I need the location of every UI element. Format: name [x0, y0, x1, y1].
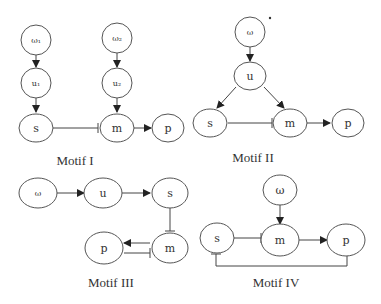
- svg-text:s: s: [167, 187, 173, 200]
- motif-4: ω s m p Motif IV: [200, 175, 365, 290]
- svg-text:m: m: [165, 242, 176, 255]
- edge-u-m: [264, 87, 284, 108]
- edge-u-s: [217, 87, 236, 108]
- svg-text:s: s: [207, 117, 213, 130]
- node-s: s: [152, 178, 188, 208]
- svg-text:u₁: u₁: [32, 79, 40, 88]
- node-omega: ω: [235, 17, 265, 47]
- node-u1: u₁: [21, 68, 51, 98]
- motif-2-label: Motif II: [232, 150, 274, 165]
- edge-s-inhibits-m: [228, 118, 272, 128]
- node-s: s: [19, 114, 53, 142]
- node-p: p: [85, 232, 123, 264]
- svg-text:m: m: [275, 234, 286, 247]
- stray-dot: [269, 17, 271, 19]
- edge-s-inhibits-m: [53, 123, 98, 133]
- svg-text:u: u: [246, 70, 253, 83]
- motif-2: ω u s m p Motif II: [193, 17, 364, 165]
- motif-3: ω u s m p Motif III: [19, 178, 188, 290]
- node-s: s: [193, 109, 227, 137]
- node-u: u: [84, 178, 122, 208]
- node-p: p: [152, 114, 184, 142]
- motif-1: ω₁ u₁ s ω₂ u₂ m p Motif I: [19, 23, 184, 168]
- svg-text:ω: ω: [35, 189, 42, 198]
- edge-s-inhibits-m: [165, 208, 175, 231]
- motif-3-label: Motif III: [88, 275, 134, 290]
- node-m: m: [152, 233, 188, 263]
- svg-text:ω: ω: [247, 28, 254, 37]
- svg-text:ω: ω: [276, 184, 285, 197]
- node-omega2: ω₂: [102, 23, 132, 53]
- node-u: u: [234, 62, 266, 90]
- svg-text:p: p: [164, 122, 171, 135]
- svg-text:u: u: [99, 187, 106, 200]
- node-s: s: [200, 223, 234, 253]
- svg-text:ω₂: ω₂: [112, 34, 122, 43]
- node-m: m: [100, 114, 134, 142]
- edge-s-inhibits-m: [234, 233, 261, 243]
- node-omega: ω: [263, 175, 297, 205]
- node-m: m: [273, 109, 307, 137]
- svg-text:s: s: [214, 232, 220, 245]
- node-p: p: [327, 224, 365, 256]
- node-omega1: ω₁: [21, 25, 51, 55]
- network-motifs-diagram: ω₁ u₁ s ω₂ u₂ m p Motif I: [0, 0, 381, 304]
- svg-text:ω₁: ω₁: [31, 36, 41, 45]
- node-p: p: [332, 109, 364, 137]
- svg-text:u₂: u₂: [113, 79, 121, 88]
- node-omega: ω: [19, 178, 57, 208]
- svg-text:m: m: [285, 117, 296, 130]
- svg-text:p: p: [100, 242, 107, 255]
- edge-p-inhibits-m: [124, 248, 150, 258]
- svg-text:p: p: [342, 234, 349, 247]
- svg-text:p: p: [344, 117, 351, 130]
- svg-text:m: m: [112, 122, 123, 135]
- motif-1-label: Motif I: [56, 153, 93, 168]
- node-m: m: [261, 224, 299, 256]
- motif-4-label: Motif IV: [253, 275, 300, 290]
- svg-text:s: s: [33, 122, 39, 135]
- node-u2: u₂: [102, 68, 132, 98]
